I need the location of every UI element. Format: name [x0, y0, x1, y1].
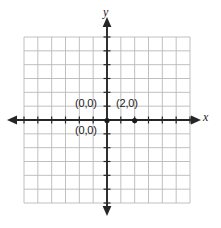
x-axis-arrow-right: [191, 116, 201, 125]
y-axis-label: y: [103, 5, 108, 20]
point-label-2-0: (2,0): [116, 97, 138, 109]
point-label-origin-below: (0,0): [75, 124, 97, 136]
x-axis-arrow-left: [7, 116, 17, 125]
data-point-origin: [104, 118, 109, 123]
x-axis-label: x: [203, 110, 208, 125]
data-point-2-0: [132, 118, 137, 123]
point-label-origin-above: (0,0): [75, 97, 97, 109]
y-axis-arrow-down: [103, 206, 112, 216]
coordinate-plane-figure: (0,0) (0,0) (2,0) x y: [0, 0, 221, 228]
coordinate-plane-svg: [0, 0, 221, 228]
